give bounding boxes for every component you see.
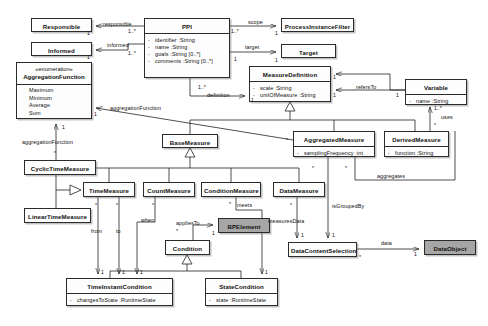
class-datameasure[interactable]: DataMeasure — [273, 182, 325, 197]
class-cyclictimemeasure[interactable]: CyclicTimeMeasure — [24, 160, 96, 175]
multiplicity: 1 — [414, 251, 417, 257]
multiplicity: 1..* — [198, 84, 206, 90]
edge-label-when: when — [141, 217, 154, 223]
class-processinstancefilter[interactable]: ProcessInstanceFilter — [281, 18, 354, 32]
class-countmeasure[interactable]: CountMeasure — [143, 182, 195, 197]
attribute-text: changesToState :RuntimeState — [77, 297, 156, 303]
stereotype-label: «enumeration» — [17, 63, 91, 73]
attribute-list: -function :String — [385, 147, 448, 160]
edge-label-responsible: responsible — [103, 21, 132, 27]
attribute-list: -changesToState :RuntimeState — [67, 294, 172, 307]
attribute-row: -name :String — [148, 44, 227, 51]
edge-label-aggregates: aggregates — [377, 173, 405, 179]
visibility-marker: - — [253, 85, 260, 92]
visibility-marker: - — [409, 98, 416, 105]
edge-label-measuresdata: measuresData — [268, 218, 304, 224]
edge-label-meets: meets — [237, 202, 252, 208]
attribute-row: -state :RuntimeState — [209, 297, 275, 304]
class-timeinstantcondition[interactable]: TimeInstantCondition -changesToState :Ru… — [66, 278, 173, 306]
multiplicity: 1 — [140, 269, 143, 275]
multiplicity: 1..* — [128, 28, 136, 34]
class-bpelement[interactable]: BPElement — [218, 218, 270, 233]
attribute-text: samplingFrequency :int — [304, 150, 363, 156]
class-timemeasure[interactable]: TimeMeasure — [83, 182, 135, 197]
attribute-row: -goals :String [0..*] — [148, 51, 227, 58]
multiplicity: * — [95, 202, 97, 208]
class-name: BaseMeasure — [163, 135, 217, 149]
multiplicity: 1 — [275, 57, 278, 63]
multiplicity: 1 — [234, 56, 237, 62]
multiplicity: 1 — [332, 232, 335, 238]
class-name: CountMeasure — [144, 183, 194, 197]
class-conditionmeasure[interactable]: ConditionMeasure — [201, 182, 261, 197]
multiplicity: * — [116, 202, 118, 208]
class-statecondition[interactable]: StateCondition -state :RuntimeState — [205, 278, 278, 306]
class-condition[interactable]: Condition — [165, 240, 210, 255]
class-name: Target — [282, 45, 335, 59]
class-name: BPElement — [219, 219, 269, 233]
attribute-text: goals :String [0..*] — [155, 51, 200, 57]
class-name: Variable — [406, 80, 466, 95]
multiplicity: * — [359, 254, 361, 260]
class-name: TimeMeasure — [84, 183, 134, 197]
attribute-row: -name :String — [409, 98, 464, 105]
multiplicity: * — [312, 165, 314, 171]
attribute-text: name :String — [416, 98, 448, 104]
class-name: LinearTimeMeasure — [25, 209, 90, 223]
attribute-list: -scale :String -unitOfMeasure :String — [250, 82, 330, 102]
class-name: TimeInstantCondition — [67, 279, 172, 294]
class-aggregatedmeasure[interactable]: AggregatedMeasure -samplingFrequency :in… — [293, 131, 375, 157]
visibility-marker: - — [209, 297, 216, 304]
class-lineartimemeasure[interactable]: LinearTimeMeasure — [24, 208, 91, 223]
enumeration-aggregationfunction[interactable]: «enumeration» AggregationFunction Maximu… — [16, 62, 92, 119]
edge-label-informed: informed — [107, 42, 129, 48]
class-measuredefinition[interactable]: MeasureDefinition -scale :String -unitOf… — [249, 66, 331, 102]
class-derivedmeasure[interactable]: DerivedMeasure -function :String — [384, 131, 449, 157]
multiplicity: * — [176, 228, 178, 234]
attribute-list: -identifier :String -name :String -goals… — [145, 34, 229, 68]
class-name: Informed — [32, 43, 91, 57]
multiplicity: 1 — [275, 30, 278, 36]
class-dataobject[interactable]: DataObject — [424, 240, 476, 255]
attribute-row: -unitOfMeasure :String — [253, 92, 328, 99]
class-datacontentselection[interactable]: DataContentSelection — [288, 242, 357, 257]
visibility-marker: - — [297, 150, 304, 157]
enum-literal: Average — [20, 102, 89, 110]
multiplicity: 1 — [333, 74, 336, 80]
class-name: AggregatedMeasure — [294, 132, 374, 147]
multiplicity: * — [345, 165, 347, 171]
attribute-row: -identifier :String — [148, 37, 227, 44]
edge-label-from: from — [91, 228, 102, 234]
class-informed[interactable]: Informed — [31, 42, 92, 56]
class-ppi[interactable]: PPI -identifier :String -name :String -g… — [144, 18, 230, 78]
uml-class-diagram: Responsible Informed «enumeration» Aggre… — [0, 0, 488, 326]
enum-literal: Minimum — [20, 95, 89, 103]
edge-label-scope: scope — [248, 19, 263, 25]
attribute-row: -samplingFrequency :int — [297, 150, 372, 157]
attribute-text: function :String — [395, 150, 433, 156]
class-variable[interactable]: Variable -name :String — [405, 79, 467, 105]
attribute-text: state :RuntimeState — [216, 297, 266, 303]
visibility-marker: - — [148, 37, 155, 44]
multiplicity: 1 — [301, 232, 304, 238]
visibility-marker: - — [70, 297, 77, 304]
multiplicity: * — [290, 202, 292, 208]
attribute-row: -scale :String — [253, 85, 328, 92]
enum-literal: Maximum — [20, 87, 89, 95]
edge-label-uses: uses — [441, 114, 453, 120]
attribute-list: -state :RuntimeState — [206, 294, 277, 307]
class-name: ConditionMeasure — [202, 183, 260, 197]
class-responsible[interactable]: Responsible — [31, 18, 92, 32]
class-target[interactable]: Target — [281, 44, 336, 58]
class-name: Condition — [166, 241, 209, 255]
multiplicity: * — [434, 122, 436, 128]
enum-literals: Maximum Minimum Average Sum — [17, 85, 91, 121]
class-name: CyclicTimeMeasure — [25, 161, 95, 175]
edge-label-aggregationfunction-upper: aggregationFunction — [110, 105, 161, 111]
class-name: DataMeasure — [274, 183, 324, 197]
multiplicity: 1..* — [128, 50, 136, 56]
multiplicity: 1 — [333, 92, 336, 98]
multiplicity: 1 — [396, 92, 399, 98]
class-basemeasure[interactable]: BaseMeasure — [162, 134, 218, 148]
edge-label-refersto: refersTo — [356, 84, 376, 90]
